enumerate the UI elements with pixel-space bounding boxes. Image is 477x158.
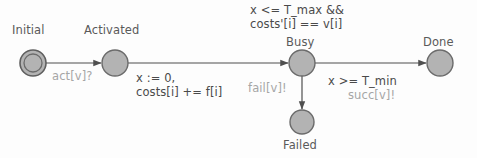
state-label-activated: Activated [84, 23, 139, 37]
state-node-initial[interactable] [20, 50, 46, 76]
state-label-initial: Initial [12, 23, 45, 37]
state-machine-diagram: Initial Activated Busy Done Failed act[v… [0, 0, 477, 158]
edge-label-busy-guard-line1: x <= T_max && [250, 3, 344, 17]
state-label-busy: Busy [286, 35, 314, 49]
state-node-busy[interactable] [289, 50, 315, 76]
edge-label-done-sync: succ[v]! [348, 88, 395, 102]
edge-label-assign-line1: x := 0, [136, 71, 175, 85]
edge-label-busy-guard-line2: costs'[i] == v[i] [250, 17, 342, 31]
edge-label-fail-sync: fail[v]! [248, 81, 287, 95]
state-label-done: Done [423, 35, 454, 49]
state-node-activated[interactable] [102, 50, 128, 76]
edge-label-done-guard: x >= T_min [328, 74, 397, 88]
state-node-done[interactable] [427, 50, 453, 76]
edge-label-assign-line2: costs[i] += f[i] [136, 85, 222, 99]
state-label-failed: Failed [283, 138, 317, 152]
state-node-failed[interactable] [290, 110, 314, 134]
edge-label-act-sync: act[v]? [52, 69, 92, 83]
